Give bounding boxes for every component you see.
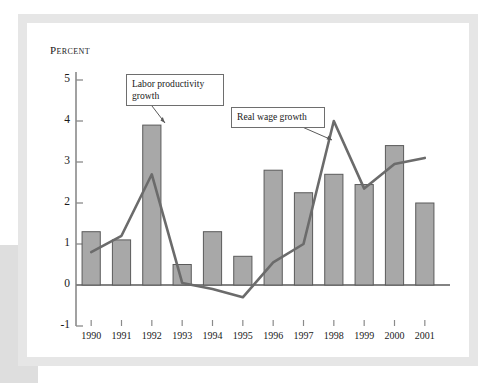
y-tick-label: 4 xyxy=(50,113,70,125)
bar xyxy=(112,240,130,285)
bar xyxy=(355,185,373,285)
leader-line-wage xyxy=(300,126,332,140)
y-tick-label: 5 xyxy=(50,72,70,84)
real-wage-growth-line xyxy=(91,121,425,297)
bar xyxy=(234,256,252,285)
y-tick-label: 3 xyxy=(50,154,70,166)
chart-plot-area: Percent Labor productivity growth Real w… xyxy=(0,0,504,383)
bar xyxy=(385,146,403,285)
bar xyxy=(416,203,434,285)
bar xyxy=(82,232,100,285)
y-tick-label: 0 xyxy=(50,277,70,289)
callout-real-wage: Real wage growth xyxy=(231,107,325,128)
callout-labor-productivity: Labor productivity growth xyxy=(126,74,224,106)
y-tick-label: 1 xyxy=(50,236,70,248)
bar xyxy=(325,174,343,285)
bar xyxy=(143,125,161,285)
bar xyxy=(203,232,221,285)
y-tick-label: -1 xyxy=(50,318,70,330)
chart-canvas xyxy=(0,0,504,383)
y-tick-label: 2 xyxy=(50,195,70,207)
x-tick-label: 2001 xyxy=(407,330,443,341)
